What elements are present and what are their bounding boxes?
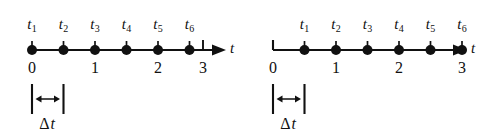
left-delta-t-bracket [32, 84, 64, 114]
right-sample-stems [305, 41, 463, 50]
right-delta-t-label: Δt [280, 116, 296, 132]
left-integer-label-1: 1 [91, 60, 99, 76]
left-axis-arrowhead [212, 45, 226, 56]
left-integer-label-3: 3 [199, 60, 207, 76]
right-integer-label-2: 2 [395, 60, 403, 76]
left-axis-name: t [230, 41, 234, 56]
left-sample-label-2: t2 [59, 17, 69, 34]
right-axis-name: t [471, 41, 475, 56]
right-sample-label-5: t5 [426, 17, 436, 34]
right-sample-label-6: t6 [457, 17, 467, 34]
right-delta-t-bracket [273, 84, 305, 114]
right-integer-label-1: 1 [332, 60, 340, 76]
right-integer-label-0: 0 [269, 60, 277, 76]
left-sample-label-1: t1 [27, 17, 37, 34]
right-sample-label-3: t3 [363, 17, 373, 34]
left-integer-label-2: 2 [154, 60, 162, 76]
left-delta-t-label: Δt [39, 116, 55, 132]
left-sample-stems [32, 41, 190, 50]
time-axis-figure: t1 t2 t3 t4 t5 t6 0 1 2 3 t Δt [0, 0, 494, 138]
left-sample-label-5: t5 [153, 17, 163, 34]
right-sample-label-1: t1 [300, 17, 310, 34]
right-sample-label-2: t2 [331, 17, 341, 34]
left-integer-label-0: 0 [28, 60, 36, 76]
right-number-line-panel: t1 t2 t3 t4 t5 t6 0 1 2 3 t Δt [247, 0, 494, 138]
left-number-line-panel: t1 t2 t3 t4 t5 t6 0 1 2 3 t Δt [0, 0, 247, 138]
left-sample-label-6: t6 [185, 17, 195, 34]
right-integer-label-3: 3 [458, 60, 466, 76]
left-sample-label-3: t3 [90, 17, 100, 34]
right-sample-label-4: t4 [394, 17, 404, 34]
left-sample-label-4: t4 [122, 17, 132, 34]
